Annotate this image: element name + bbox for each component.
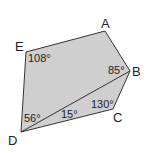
vertex-label-e: E bbox=[15, 39, 24, 54]
vertex-label-b: B bbox=[132, 64, 141, 79]
angle-label-d-56: 56° bbox=[24, 112, 41, 124]
angle-label-e: 108° bbox=[28, 52, 51, 64]
vertex-label-d: D bbox=[8, 133, 17, 148]
angle-label-d-15: 15° bbox=[61, 108, 78, 120]
angle-label-b: 85° bbox=[108, 64, 125, 76]
vertex-label-c: C bbox=[113, 110, 122, 125]
vertex-label-a: A bbox=[101, 16, 110, 31]
pentagon-diagram: A B C D E 108° 85° 130° 56° 15° bbox=[0, 0, 148, 153]
angle-label-c: 130° bbox=[91, 98, 114, 110]
